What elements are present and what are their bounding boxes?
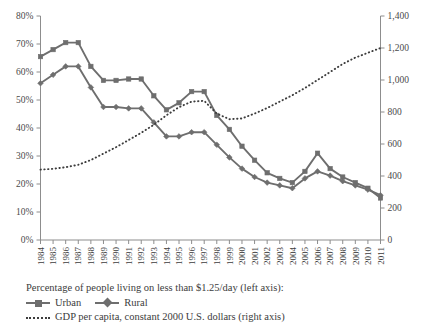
- y-axis-left-tick-label: 60%: [16, 67, 34, 77]
- x-axis-tick-label: 1999: [225, 247, 235, 266]
- series-marker-urban: [126, 77, 130, 81]
- series-marker-urban: [265, 171, 269, 175]
- series-marker-urban: [189, 89, 193, 93]
- y-axis-left-tick-label: 70%: [16, 39, 34, 49]
- y-axis-right-tick-label: 0: [388, 235, 393, 245]
- series-marker-urban: [101, 78, 105, 82]
- series-marker-urban: [278, 176, 282, 180]
- series-marker-urban: [240, 144, 244, 148]
- y-axis-left-tick-label: 30%: [16, 151, 34, 161]
- series-marker-rural: [189, 129, 195, 135]
- legend-label-gdp: GDP per capita, constant 2000 U.S. dolla…: [55, 310, 285, 324]
- series-marker-urban: [303, 169, 307, 173]
- legend-row-gdp: GDP per capita, constant 2000 U.S. dolla…: [26, 310, 426, 324]
- y-axis-left-tick-label: 50%: [16, 95, 34, 105]
- x-axis-tick-label: 1993: [149, 247, 159, 266]
- series-marker-urban: [139, 77, 143, 81]
- x-axis-tick-label: 2010: [363, 247, 373, 266]
- series-marker-urban: [328, 166, 332, 170]
- y-axis-right-tick-label: 1,400: [388, 11, 410, 21]
- series-marker-urban: [315, 151, 319, 155]
- series-marker-urban: [202, 89, 206, 93]
- x-axis-tick-label: 2002: [262, 247, 272, 265]
- chart-legend: Percentage of people living on less than…: [26, 281, 426, 324]
- legend-label-rural: Rural: [124, 296, 147, 310]
- y-axis-right-tick-label: 600: [388, 139, 403, 149]
- x-axis-tick-label: 1994: [162, 247, 172, 266]
- y-axis-right-tick-label: 1,200: [388, 43, 410, 53]
- x-axis-tick-label: 1987: [73, 247, 83, 266]
- x-axis-tick-label: 1985: [48, 247, 58, 266]
- x-axis-tick-label: 1996: [187, 247, 197, 266]
- x-axis-tick-label: 1989: [99, 247, 109, 266]
- series-marker-rural: [327, 173, 333, 179]
- chart-plot-area: 0%10%20%30%40%50%60%70%80%02004006008001…: [0, 0, 431, 326]
- x-axis-tick-label: 2005: [300, 247, 310, 266]
- x-axis-tick-label: 1988: [86, 247, 96, 266]
- series-marker-urban: [252, 158, 256, 162]
- x-axis-tick-label: 2006: [313, 247, 323, 266]
- y-axis-left-tick-label: 20%: [16, 179, 34, 189]
- series-marker-urban: [51, 47, 55, 51]
- x-axis-tick-label: 2003: [275, 247, 285, 266]
- series-marker-rural: [126, 106, 132, 112]
- series-marker-rural: [277, 183, 283, 189]
- series-marker-rural: [113, 104, 119, 110]
- series-marker-urban: [152, 94, 156, 98]
- x-axis-tick-label: 1995: [174, 247, 184, 266]
- legend-entry-rural: Rural: [95, 296, 147, 310]
- series-marker-urban: [89, 64, 93, 68]
- legend-row-series: Urban Rural: [26, 296, 426, 310]
- legend-swatch-urban-square-icon: [26, 298, 50, 308]
- x-axis-tick-label: 2000: [237, 247, 247, 266]
- legend-caption: Percentage of people living on less than…: [26, 281, 426, 295]
- x-axis-tick-label: 1990: [111, 247, 121, 266]
- series-marker-urban: [290, 180, 294, 184]
- y-axis-left-tick-label: 0%: [21, 235, 34, 245]
- series-marker-urban: [177, 101, 181, 105]
- legend-entry-gdp: GDP per capita, constant 2000 U.S. dolla…: [26, 310, 285, 324]
- x-axis-tick-label: 2001: [250, 247, 260, 265]
- x-axis-tick-label: 2011: [376, 247, 386, 265]
- series-marker-urban: [38, 54, 42, 58]
- x-axis-tick-label: 1984: [36, 247, 46, 266]
- series-marker-urban: [227, 127, 231, 131]
- series-marker-urban: [63, 40, 67, 44]
- series-marker-rural: [176, 134, 182, 140]
- y-axis-right-tick-label: 200: [388, 203, 403, 213]
- series-marker-urban: [76, 40, 80, 44]
- series-marker-urban: [215, 113, 219, 117]
- series-marker-urban: [114, 78, 118, 82]
- x-axis-tick-label: 1991: [124, 247, 134, 265]
- x-axis-tick-label: 2004: [288, 247, 298, 266]
- y-axis-left-tick-label: 40%: [16, 123, 34, 133]
- series-marker-rural: [264, 180, 270, 186]
- legend-entry-urban: Urban: [26, 296, 81, 310]
- y-axis-left-tick-label: 80%: [16, 11, 34, 21]
- y-axis-left-tick-label: 10%: [16, 207, 34, 217]
- y-axis-right-tick-label: 1,000: [388, 75, 410, 85]
- x-axis-tick-label: 1986: [61, 247, 71, 266]
- x-axis-tick-label: 2009: [351, 247, 361, 266]
- legend-swatch-rural-diamond-icon: [95, 298, 119, 308]
- y-axis-right-tick-label: 800: [388, 107, 403, 117]
- x-axis-tick-label: 1992: [136, 247, 146, 265]
- legend-swatch-gdp-dotted-icon: [26, 312, 50, 322]
- chart-container: 0%10%20%30%40%50%60%70%80%02004006008001…: [0, 0, 431, 326]
- x-axis-tick-label: 1997: [199, 247, 209, 266]
- legend-label-urban: Urban: [55, 296, 81, 310]
- x-axis-tick-label: 2007: [325, 247, 335, 266]
- series-marker-urban: [164, 108, 168, 112]
- x-axis-tick-label: 2008: [338, 247, 348, 266]
- x-axis-tick-label: 1998: [212, 247, 222, 266]
- y-axis-right-tick-label: 400: [388, 171, 403, 181]
